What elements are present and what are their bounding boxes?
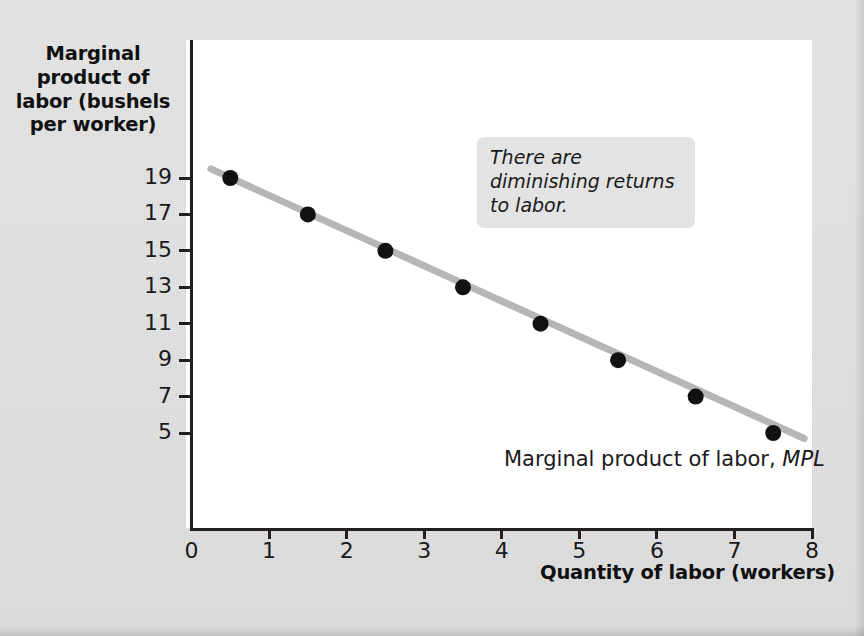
data-point bbox=[455, 279, 471, 295]
y-axis-title: Marginal product of labor (bushels per w… bbox=[8, 42, 178, 137]
x-axis-title: Quantity of labor (workers) bbox=[540, 561, 835, 584]
data-point bbox=[765, 425, 781, 441]
data-point bbox=[300, 206, 316, 222]
data-point bbox=[688, 389, 704, 405]
data-point bbox=[610, 352, 626, 368]
curve-label-text: Marginal product of labor, bbox=[504, 447, 782, 471]
curve-label-symbol: MPL bbox=[782, 447, 824, 471]
data-point bbox=[222, 170, 238, 186]
data-point bbox=[377, 243, 393, 259]
figure-marginal-product-of-labor: 1917151311975 012345678 Marginal product… bbox=[0, 0, 864, 636]
data-point bbox=[533, 316, 549, 332]
curve-label-mpl: Marginal product of labor, MPL bbox=[504, 447, 825, 471]
callout-diminishing-returns: There are diminishing returns to labor. bbox=[477, 137, 695, 228]
